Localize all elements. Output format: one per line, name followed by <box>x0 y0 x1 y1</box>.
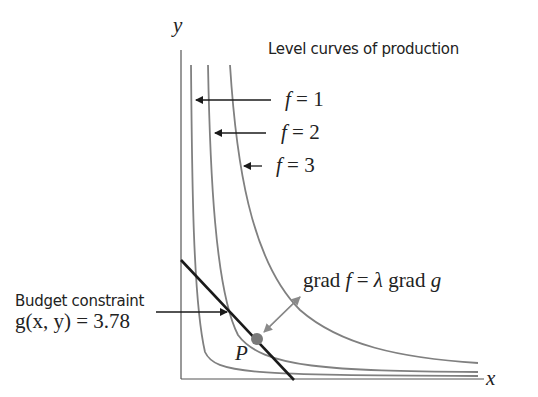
gradient-text-eq: = <box>351 268 373 292</box>
gradient-text-post: grad <box>383 268 431 292</box>
point-p <box>251 333 263 345</box>
x-axis-label: x <box>486 366 495 391</box>
label-f3: f = 3 <box>276 153 315 178</box>
budget-constraint-title: Budget constraint <box>15 292 144 310</box>
f-symbol: f <box>285 87 291 111</box>
diagram-canvas <box>0 0 538 397</box>
label-f1-value: = 1 <box>296 87 324 111</box>
point-p-label: P <box>235 341 248 366</box>
label-f2: f = 2 <box>281 120 320 145</box>
level-curves <box>191 65 478 376</box>
label-f2-value: = 2 <box>292 120 320 144</box>
lagrange-diagram: y x Level curves of production f = 1 f =… <box>0 0 538 397</box>
level-curve-f2 <box>208 65 478 372</box>
budget-constraint-equation: g(x, y) = 3.78 <box>15 309 130 334</box>
f-symbol: f <box>276 153 282 177</box>
label-f1: f = 1 <box>285 87 324 112</box>
g-symbol: g <box>431 268 442 292</box>
label-f3-value: = 3 <box>287 153 315 177</box>
level-curve-f3 <box>230 65 478 363</box>
lambda-symbol: λ <box>374 268 383 292</box>
y-axis-label: y <box>173 13 182 38</box>
diagram-title: Level curves of production <box>268 40 459 58</box>
gradient-arrow-back <box>264 297 300 332</box>
f-symbol: f <box>281 120 287 144</box>
gradient-text-pre: grad <box>303 268 346 292</box>
gradient-label: grad f = λ grad g <box>303 268 441 293</box>
